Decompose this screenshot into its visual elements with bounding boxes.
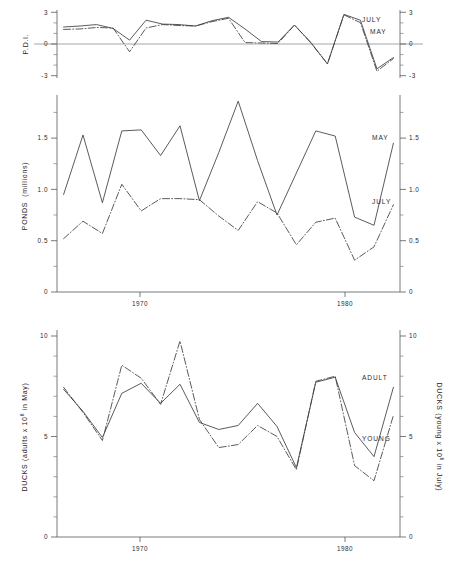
ponds-ytick-15-right: 1.5 bbox=[409, 134, 419, 141]
ponds-ytick-10-left: 1.0 bbox=[38, 186, 48, 193]
ponds-ticks-left bbox=[51, 112, 57, 292]
ponds-xtick-1970: 1970 bbox=[132, 300, 148, 307]
ducks-ytick-5-left: 5 bbox=[44, 433, 48, 440]
ponds-xtick-1980: 1980 bbox=[337, 300, 353, 307]
ponds-label-may: MAY bbox=[372, 134, 389, 141]
ponds-ticks-right bbox=[400, 112, 406, 292]
ducks-ticks-right bbox=[400, 336, 406, 537]
panel-ponds: 0 0.5 1.0 1.5 0 0.5 1.0 1.5 1970 1980 PO… bbox=[21, 95, 419, 307]
ducks-xticks bbox=[140, 537, 345, 542]
ducks-series-adult-line bbox=[64, 377, 394, 467]
ducks-label-young: YOUNG bbox=[362, 435, 391, 442]
pdi-ytick-0-right: 0 bbox=[409, 40, 413, 47]
panel-pdi: 3 0 -3 3 0 -3 P.D.I. JULY MAY bbox=[22, 9, 423, 79]
ducks-ytick-0-left: 0 bbox=[44, 533, 48, 540]
pdi-series-july-line bbox=[64, 14, 394, 68]
pdi-label-may: MAY bbox=[370, 28, 387, 35]
ducks-xtick-1970: 1970 bbox=[132, 545, 148, 552]
pdi-ytick-neg3-right: -3 bbox=[409, 72, 416, 79]
pdi-label-july: JULY bbox=[362, 16, 381, 23]
ponds-y-axis-title: PONDS(millions) bbox=[21, 162, 29, 230]
ponds-ytick-0-right: 0 bbox=[409, 288, 413, 295]
pdi-series-may-line bbox=[64, 15, 394, 71]
ponds-ytick-05-left: 0.5 bbox=[38, 237, 48, 244]
pdi-ytick-neg3-left: -3 bbox=[41, 72, 48, 79]
ponds-ytick-15-left: 1.5 bbox=[38, 134, 48, 141]
ponds-label-july: JULY bbox=[372, 198, 391, 205]
ducks-ytick-0-right: 0 bbox=[409, 533, 413, 540]
pdi-y-axis-title: P.D.I. bbox=[22, 34, 29, 55]
figure-panel-stack: 3 0 -3 3 0 -3 P.D.I. JULY MAY bbox=[0, 0, 452, 565]
ponds-xticks bbox=[140, 292, 345, 297]
pdi-ytick-3-right: 3 bbox=[409, 9, 413, 16]
ponds-ytick-10-right: 1.0 bbox=[409, 186, 419, 193]
ducks-ytick-10-right: 10 bbox=[409, 332, 417, 339]
pdi-ticks-right bbox=[400, 12, 406, 75]
ducks-y-axis-title-left: DUCKS (adults x 106 in May) bbox=[20, 382, 29, 491]
pdi-ticks-left bbox=[51, 12, 57, 75]
ducks-label-adult: ADULT bbox=[362, 374, 388, 381]
pdi-ytick-3-left: 3 bbox=[44, 9, 48, 16]
ducks-xtick-1980: 1980 bbox=[337, 545, 353, 552]
ducks-y-axis-title-right: DUCKS (young x 106 in July) bbox=[435, 383, 444, 492]
ponds-ytick-05-right: 0.5 bbox=[409, 237, 419, 244]
ducks-series-young-line bbox=[64, 341, 394, 481]
ponds-ytick-0-left: 0 bbox=[44, 288, 48, 295]
panel-ducks: 0 5 10 0 5 10 1970 1980 DUCKS (adults x … bbox=[20, 330, 444, 552]
ducks-ticks-left bbox=[51, 336, 57, 537]
ducks-ytick-10-left: 10 bbox=[40, 332, 48, 339]
ducks-ytick-5-right: 5 bbox=[409, 433, 413, 440]
chart-svg: 3 0 -3 3 0 -3 P.D.I. JULY MAY bbox=[0, 0, 452, 565]
pdi-ytick-0-left: 0 bbox=[44, 40, 48, 47]
ponds-series-july-line bbox=[64, 184, 394, 260]
